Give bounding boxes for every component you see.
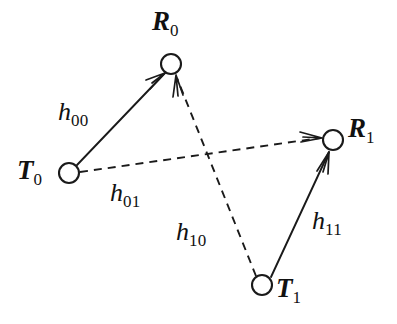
link-label-h00-base: h	[58, 97, 71, 126]
mimo-channel-diagram: R0 T0 R1 T1 h00 h01 h10 h11	[0, 0, 397, 324]
node-label-T1-sub: 1	[293, 288, 302, 307]
node-label-R1-base: R	[348, 113, 366, 143]
node-label-R1: R1	[348, 115, 375, 146]
node-R1[interactable]	[323, 130, 343, 150]
link-label-h10-sub: 10	[189, 231, 207, 250]
link-label-h10: h10	[176, 219, 207, 249]
node-label-T0-sub: 0	[34, 170, 43, 189]
node-group	[59, 54, 343, 295]
link-label-h01: h01	[110, 180, 141, 210]
link-label-h10-base: h	[176, 217, 189, 246]
link-h00	[77, 73, 165, 165]
link-h01	[80, 132, 322, 172]
node-R0[interactable]	[161, 54, 181, 74]
node-label-T1-base: T	[276, 273, 293, 303]
diagram-canvas	[0, 0, 397, 324]
link-label-h01-base: h	[110, 178, 123, 207]
link-label-h11: h11	[312, 208, 342, 238]
node-label-T0-base: T	[17, 155, 34, 185]
link-label-h11-sub: 11	[325, 220, 342, 239]
node-T0[interactable]	[59, 163, 79, 183]
node-label-R0: R0	[152, 8, 179, 39]
link-label-h00-sub: 00	[71, 111, 89, 130]
link-label-h01-sub: 01	[123, 192, 141, 211]
node-T1[interactable]	[252, 275, 272, 295]
node-label-R1-sub: 1	[366, 128, 375, 147]
link-label-h00: h00	[58, 99, 89, 129]
node-label-T0: T0	[17, 157, 42, 188]
link-h11-arrowhead	[317, 152, 329, 174]
link-label-h11-base: h	[312, 206, 325, 235]
link-h01-line	[80, 138, 320, 172]
node-label-T1: T1	[276, 275, 301, 306]
link-h10-arrowhead	[173, 75, 183, 97]
node-label-R0-sub: 0	[170, 21, 179, 40]
link-h00-arrowhead	[146, 73, 165, 89]
node-label-R0-base: R	[152, 6, 170, 36]
